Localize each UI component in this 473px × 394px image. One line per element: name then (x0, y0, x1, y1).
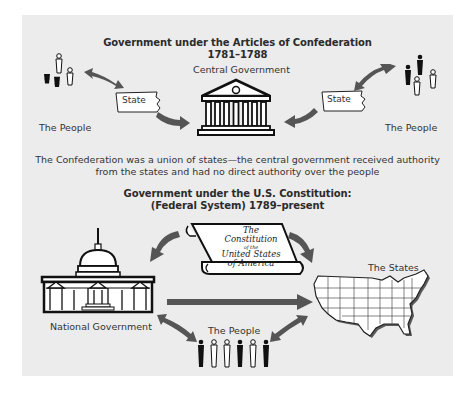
arrows-bottom (0, 0, 473, 394)
